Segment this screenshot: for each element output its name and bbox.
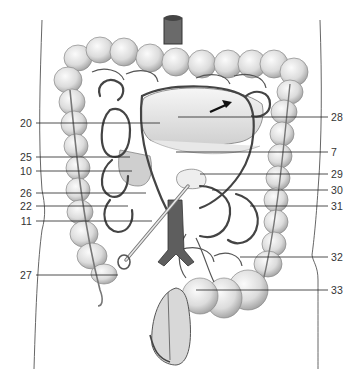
aorta-lower (158, 200, 194, 266)
label-32: 32 (331, 251, 355, 263)
label-25: 25 (4, 151, 32, 163)
label-28: 28 (331, 111, 355, 123)
label-29: 29 (331, 168, 355, 180)
label-27: 27 (4, 269, 32, 281)
label-20: 20 (4, 117, 32, 129)
intestine-illustration (0, 0, 362, 369)
label-7: 7 (331, 146, 355, 158)
label-31: 31 (331, 200, 355, 212)
label-11: 11 (4, 215, 32, 227)
rectum (150, 288, 190, 365)
duodenum (119, 150, 206, 189)
ascending-colon (54, 67, 117, 306)
label-22: 22 (4, 200, 32, 212)
label-26: 26 (4, 187, 32, 199)
label-33: 33 (331, 284, 355, 296)
transverse-colon (64, 37, 308, 86)
aorta-stump (164, 15, 182, 44)
sigmoid-colon (182, 270, 268, 318)
label-30: 30 (331, 184, 355, 196)
label-10: 10 (4, 165, 32, 177)
